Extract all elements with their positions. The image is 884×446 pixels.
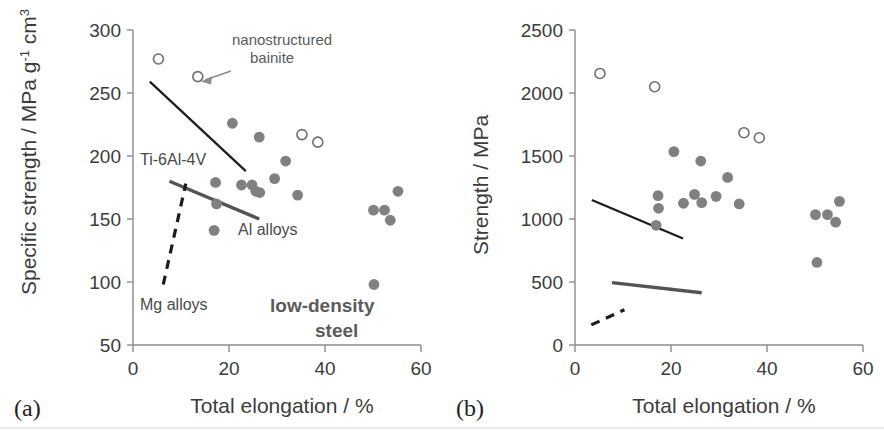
x-tick-label: 60: [410, 358, 431, 379]
label-ti-6al-4v: Ti-6Al-4V: [140, 151, 206, 168]
x-axis-title: Total elongation / %: [632, 394, 815, 417]
data-point-open: [754, 133, 764, 143]
data-point-filled: [812, 257, 823, 268]
data-point-filled: [830, 217, 841, 228]
y-tick-label: 0: [552, 335, 563, 356]
data-point-filled: [810, 209, 821, 220]
y-tick-label: 2000: [521, 83, 563, 104]
label-low-density-steel-line2: steel: [315, 320, 358, 341]
figure-container: 300250200150100500204060Specific strengt…: [0, 0, 884, 446]
trendline-mg-alloys: [163, 184, 186, 285]
y-tick-label: 100: [89, 272, 121, 293]
data-point-filled: [734, 198, 745, 209]
data-point-filled: [651, 220, 662, 231]
data-point-open: [297, 130, 307, 140]
data-point-filled: [254, 187, 265, 198]
y-tick-label: 500: [531, 272, 563, 293]
data-point-filled: [236, 180, 247, 191]
x-tick-label: 20: [660, 358, 681, 379]
data-point-filled: [292, 190, 303, 201]
data-point-filled: [668, 146, 679, 157]
data-point-filled: [711, 191, 722, 202]
data-point-filled: [695, 156, 706, 167]
panel-letter-b: (b): [456, 395, 484, 421]
data-point-filled: [678, 198, 689, 209]
data-point-filled: [280, 156, 291, 167]
data-point-filled: [227, 118, 238, 129]
x-tick-label: 40: [314, 358, 335, 379]
label-low-density-steel-line1: low-density: [270, 295, 375, 316]
data-point-filled: [379, 205, 390, 216]
y-axis-title-sup1: -1: [17, 50, 32, 62]
y-tick-label: 1000: [521, 209, 563, 230]
y-axis-title-main: Specific strength / MPa g: [17, 62, 40, 295]
label-mg-alloys: Mg alloys: [140, 296, 208, 313]
series-nanostructured-bainite: [595, 68, 764, 142]
y-tick-label: 300: [89, 20, 121, 41]
y-axis-title-sup2: 3: [17, 9, 32, 16]
data-point-filled: [368, 205, 379, 216]
y-tick-label: 1500: [521, 146, 563, 167]
data-point-filled: [696, 197, 707, 208]
axes-group: 250020001500100050000204060: [521, 20, 874, 379]
trendline-ti-6al-4v: [592, 200, 683, 238]
y-tick-label: 150: [89, 209, 121, 230]
data-point-filled: [722, 172, 733, 183]
data-point-filled: [369, 279, 380, 290]
data-point-filled: [385, 215, 396, 226]
panel-a-plot: 300250200150100500204060Specific strengt…: [0, 0, 442, 446]
x-tick-label: 0: [128, 358, 139, 379]
x-tick-label: 0: [570, 358, 581, 379]
label-nanostructured-bainite-line1: nanostructured: [232, 31, 332, 48]
label-al-alloys: Al alloys: [238, 221, 298, 238]
series-nanostructured-bainite: [153, 54, 322, 147]
data-point-open: [739, 128, 749, 138]
data-point-filled: [269, 173, 280, 184]
trendline-mg-alloys: [591, 310, 624, 325]
x-tick-label: 20: [218, 358, 239, 379]
data-point-open: [650, 82, 660, 92]
axes-group: 300250200150100500204060: [89, 20, 431, 379]
series-low-density-steel: [651, 146, 845, 268]
series-low-density-steel: [209, 118, 404, 290]
data-point-filled: [653, 190, 664, 201]
trendline-al-alloys: [612, 283, 702, 293]
panel-b-plot: 250020001500100050000204060Strength / MP…: [442, 0, 884, 446]
y-tick-label: 250: [89, 83, 121, 104]
y-axis-title-tail: cm: [17, 16, 40, 50]
data-point-filled: [209, 225, 220, 236]
panel-b-strength: 250020001500100050000204060Strength / MP…: [442, 0, 884, 446]
y-tick-label: 200: [89, 146, 121, 167]
data-point-filled: [834, 196, 845, 207]
y-tick-label: 50: [100, 335, 121, 356]
data-point-filled: [393, 186, 404, 197]
data-point-filled: [653, 203, 664, 214]
data-point-open: [313, 137, 323, 147]
y-tick-label: 2500: [521, 20, 563, 41]
panel-a-specific-strength: 300250200150100500204060Specific strengt…: [0, 0, 442, 446]
data-point-filled: [254, 132, 265, 143]
data-point-filled: [689, 189, 700, 200]
data-point-open: [595, 68, 605, 78]
data-point-open: [153, 54, 163, 64]
panel-letter-a: (a): [14, 395, 41, 421]
data-point-filled: [210, 177, 221, 188]
y-axis-title: Strength / MPa: [469, 115, 492, 255]
label-nanostructured-bainite-line2: bainite: [250, 49, 294, 66]
data-point-filled: [822, 209, 833, 220]
x-tick-label: 40: [756, 358, 777, 379]
data-point-filled: [211, 198, 222, 209]
data-point-open: [193, 72, 203, 82]
x-tick-label: 60: [852, 358, 873, 379]
y-axis-title: Specific strength / MPa g-1 cm3: [17, 9, 40, 295]
x-axis-title: Total elongation / %: [190, 394, 373, 417]
